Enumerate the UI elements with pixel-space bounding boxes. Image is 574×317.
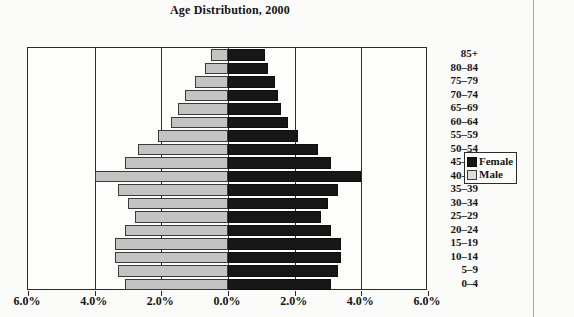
bar-row: [28, 251, 426, 265]
bar-female: [228, 130, 298, 142]
age-group-label: 25–29: [432, 209, 478, 223]
bar-row: [28, 75, 426, 89]
x-axis-tick-label: 6.0%: [397, 294, 457, 309]
chart-legend: Female Male: [464, 152, 517, 184]
bar-male: [125, 279, 228, 291]
bar-female: [228, 90, 278, 102]
bar-female: [228, 225, 331, 237]
bar-row: [28, 129, 426, 143]
bar-female: [228, 238, 341, 250]
bar-male: [128, 198, 228, 210]
x-axis-tick-label: 2.0%: [130, 294, 190, 309]
age-group-label: 70–74: [432, 88, 478, 102]
bar-male: [205, 63, 228, 75]
age-group-label: 85+: [432, 47, 478, 61]
bar-female: [228, 265, 338, 277]
x-axis-tick-label: 4.0%: [330, 294, 390, 309]
bar-row: [28, 210, 426, 224]
bar-male: [115, 238, 228, 250]
bar-row: [28, 89, 426, 103]
bar-female: [228, 49, 265, 61]
bar-female: [228, 279, 331, 291]
bar-row: [28, 197, 426, 211]
x-axis-tick-label: 4.0%: [64, 294, 124, 309]
bar-female: [228, 211, 321, 223]
bar-male: [118, 184, 228, 196]
bar-male: [118, 265, 228, 277]
bar-male: [135, 211, 228, 223]
bar-female: [228, 144, 318, 156]
bar-male: [125, 225, 228, 237]
bar-female: [228, 117, 288, 129]
chart-title: Age Distribution, 2000: [0, 3, 460, 18]
bar-row: [28, 224, 426, 238]
legend-label-male: Male: [479, 169, 503, 180]
bar-row: [28, 264, 426, 278]
bar-male: [171, 117, 228, 129]
bar-row: [28, 102, 426, 116]
age-group-label: 0–4: [432, 277, 478, 291]
bar-row: [28, 183, 426, 197]
legend-item-female: Female: [467, 155, 513, 168]
legend-label-female: Female: [479, 156, 513, 167]
age-group-label: 20–24: [432, 223, 478, 237]
bar-female: [228, 198, 328, 210]
bar-row: [28, 156, 426, 170]
bar-male: [125, 157, 228, 169]
x-axis-labels: 6.0%4.0%2.0%0.0%2.0%4.0%6.0%: [0, 294, 574, 314]
bar-row: [28, 278, 426, 292]
legend-item-male: Male: [467, 168, 513, 181]
x-axis-tick-label: 0.0%: [197, 294, 257, 309]
bar-male: [178, 103, 228, 115]
bar-female: [228, 184, 338, 196]
age-group-label: 75–79: [432, 74, 478, 88]
bar-row: [28, 116, 426, 130]
bar-male: [195, 76, 228, 88]
bar-male: [158, 130, 228, 142]
age-group-label: 10–14: [432, 250, 478, 264]
page-margin-rule: [533, 0, 534, 317]
bar-row: [28, 237, 426, 251]
bar-row: [28, 143, 426, 157]
age-group-label: 15–19: [432, 236, 478, 250]
bar-male: [138, 144, 228, 156]
bar-male: [115, 252, 228, 264]
x-axis-tick-label: 2.0%: [264, 294, 324, 309]
bar-female: [228, 252, 341, 264]
plot-area: [27, 47, 427, 290]
x-axis-tick-label: 6.0%: [0, 294, 57, 309]
male-swatch-icon: [467, 170, 477, 180]
bar-female: [228, 171, 361, 183]
age-group-label: 55–59: [432, 128, 478, 142]
bar-row: [28, 62, 426, 76]
age-group-label: 5–9: [432, 263, 478, 277]
bar-male: [95, 171, 228, 183]
bar-row: [28, 170, 426, 184]
female-swatch-icon: [467, 157, 477, 167]
age-group-label: 35–39: [432, 182, 478, 196]
bar-male: [185, 90, 228, 102]
age-group-label: 65–69: [432, 101, 478, 115]
bar-row: [28, 48, 426, 62]
bar-female: [228, 157, 331, 169]
bar-female: [228, 76, 275, 88]
bar-male: [211, 49, 228, 61]
age-group-label: 80–84: [432, 61, 478, 75]
age-group-label: 30–34: [432, 196, 478, 210]
bar-female: [228, 103, 281, 115]
bar-female: [228, 63, 268, 75]
age-group-label: 60–64: [432, 115, 478, 129]
